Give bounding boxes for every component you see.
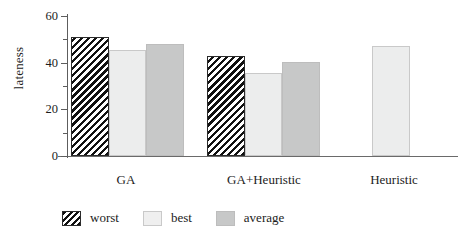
y-axis-title: lateness — [11, 23, 27, 113]
y-tick-label-20: 20 — [28, 103, 58, 116]
bar-ga-best[interactable] — [109, 50, 146, 156]
y-tick-label-40: 40 — [28, 57, 58, 70]
bar-ga-average[interactable] — [146, 44, 184, 156]
legend-item-average[interactable]: average — [216, 210, 308, 226]
legend-swatch-worst-icon — [62, 211, 81, 226]
bar-ga-heuristic-average[interactable] — [282, 62, 320, 157]
x-category-ga-heuristic: GA+Heuristic — [204, 172, 324, 188]
x-axis-line — [58, 156, 458, 157]
chart-legend: worst best average — [62, 208, 308, 228]
y-tick-label-60: 60 — [28, 10, 58, 23]
chart-figure: lateness 0 20 40 60 GA GA+Heuristic Heur… — [0, 0, 465, 235]
bar-ga-heuristic-worst[interactable] — [207, 56, 245, 156]
y-tick-0 — [61, 156, 68, 157]
y-tick-40 — [61, 63, 68, 64]
x-category-ga: GA — [68, 172, 184, 188]
bar-heuristic-best[interactable] — [372, 46, 410, 156]
legend-label-best: best — [171, 210, 192, 226]
legend-label-average: average — [244, 210, 284, 226]
legend-swatch-best-icon — [143, 211, 162, 226]
bar-ga-heuristic-best[interactable] — [245, 73, 282, 156]
legend-swatch-average-icon — [216, 211, 235, 226]
legend-label-worst: worst — [90, 210, 119, 226]
legend-item-worst[interactable]: worst — [62, 210, 143, 226]
x-category-heuristic: Heuristic — [340, 172, 448, 188]
y-tick-label-0: 0 — [28, 150, 58, 163]
y-tick-20 — [61, 109, 68, 110]
y-tick-60 — [61, 16, 68, 17]
bar-ga-worst[interactable] — [71, 37, 109, 156]
legend-item-best[interactable]: best — [143, 210, 216, 226]
plot-area — [68, 16, 448, 156]
